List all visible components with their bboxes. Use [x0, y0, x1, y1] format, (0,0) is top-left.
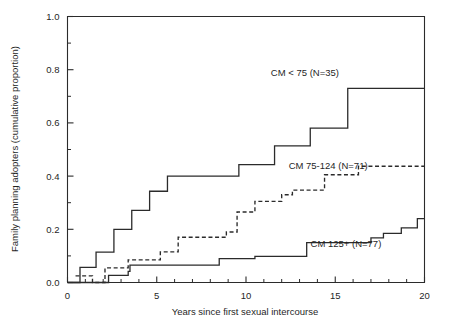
y-tick-label: 0.4: [46, 171, 59, 182]
series-line-3: [68, 219, 425, 283]
x-tick-label: 20: [419, 290, 430, 301]
step-chart-canvas: 051015200.00.20.40.60.81.0 CM < 75 (N=35…: [0, 0, 449, 328]
x-tick-label: 15: [330, 290, 341, 301]
chart-figure: 051015200.00.20.40.60.81.0 CM < 75 (N=35…: [0, 0, 449, 328]
x-tick-label: 10: [241, 290, 252, 301]
x-tick-label: 5: [154, 290, 159, 301]
y-tick-label: 0.2: [46, 224, 59, 235]
x-axis-title: Years since first sexual intercourse: [172, 306, 318, 317]
y-tick-label: 0.8: [46, 64, 59, 75]
tick-labels-group: 051015200.00.20.40.60.81.0: [46, 11, 430, 301]
x-tick-label: 0: [65, 290, 70, 301]
y-tick-label: 1.0: [46, 11, 59, 22]
y-tick-label: 0.0: [46, 277, 59, 288]
y-axis-title: Family planning adopters (cumulative pro…: [9, 46, 20, 252]
series-annotations-group: CM < 75 (N=35)CM 75-124 (N=71)CM 125+ (N…: [271, 67, 382, 248]
series-label-1: CM < 75 (N=35): [271, 67, 339, 78]
series-label-3: CM 125+ (N=77): [311, 238, 382, 249]
series-line-2: [76, 166, 425, 282]
y-tick-label: 0.6: [46, 117, 59, 128]
series-label-2: CM 75-124 (N=71): [289, 160, 368, 171]
series-line-1: [68, 88, 425, 282]
data-series-group: [68, 88, 425, 282]
